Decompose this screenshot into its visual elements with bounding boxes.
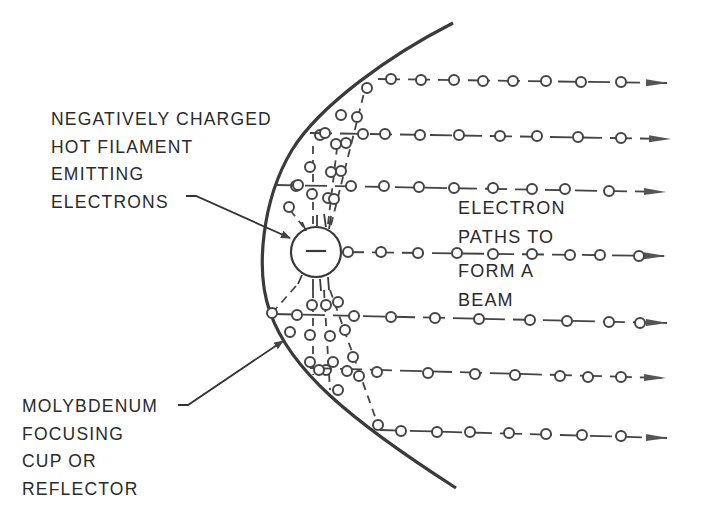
cup-leader-line — [178, 341, 283, 405]
cup-label-line-2: FOCUSING — [22, 421, 158, 449]
beam-label-line-2: PATHS TO — [458, 223, 566, 257]
beam-label-line-4: BEAM — [458, 286, 566, 315]
filament-label: NEGATIVELY CHARGED HOT FILAMENT EMITTING… — [51, 106, 272, 216]
filament-label-line-1: NEGATIVELY CHARGED — [51, 106, 272, 134]
beam-label-line-3: FORM A — [458, 257, 566, 286]
cup-label-line-3: CUP OR — [22, 448, 158, 476]
filament-label-line-2: HOT FILAMENT — [51, 134, 272, 162]
beam-label: ELECTRON PATHS TO FORM A BEAM — [458, 194, 566, 315]
filament-label-line-4: ELECTRONS — [51, 189, 272, 217]
cup-label: MOLYBDENUM FOCUSING CUP OR REFLECTOR — [22, 393, 158, 503]
filament-label-line-3: EMITTING — [51, 161, 272, 189]
filament-circle — [291, 214, 341, 291]
beam-label-line-1: ELECTRON — [458, 194, 566, 223]
cup-label-line-4: REFLECTOR — [22, 476, 158, 504]
cup-label-line-1: MOLYBDENUM — [22, 393, 158, 421]
